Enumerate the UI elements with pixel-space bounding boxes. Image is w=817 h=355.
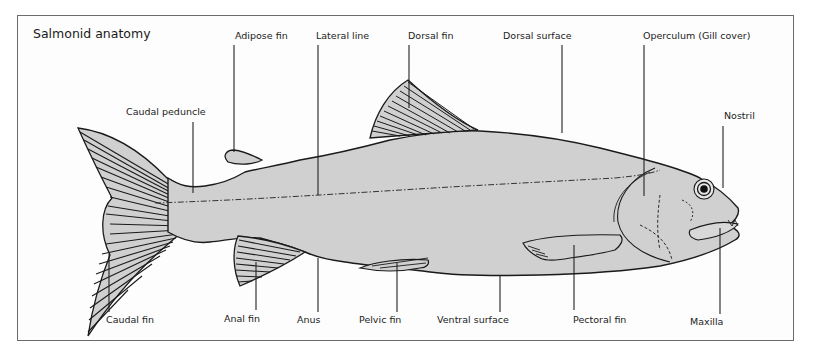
label-nostril: Nostril [724,110,755,121]
label-adipose-fin: Adipose fin [235,30,288,41]
label-pelvic-fin: Pelvic fin [359,314,401,325]
label-dorsal-fin: Dorsal fin [408,30,453,41]
label-maxilla: Maxilla [690,316,723,327]
label-ventral-surface: Ventral surface [437,314,509,325]
label-operculum: Operculum (Gill cover) [643,30,750,41]
eye-shape [694,179,714,199]
label-lateral-line: Lateral line [316,30,369,41]
salmon-illustration [0,0,817,355]
label-pectoral-fin: Pectoral fin [573,314,626,325]
label-dorsal-surface: Dorsal surface [503,30,572,41]
label-caudal-peduncle: Caudal peduncle [126,106,206,117]
caudal-fin-shape [78,128,182,336]
label-caudal-fin: Caudal fin [106,314,154,325]
adipose-fin-shape [225,150,262,164]
label-anus: Anus [297,314,321,325]
dorsal-fin-shape [370,80,478,138]
label-anal-fin: Anal fin [224,313,260,324]
